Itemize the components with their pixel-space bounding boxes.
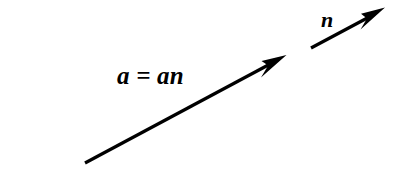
resultant-vector-label: a = an	[117, 63, 184, 88]
vector-diagram-figure: a = an n	[0, 0, 399, 175]
resultant-vector-a	[85, 55, 287, 163]
vector-diagram-canvas	[0, 0, 399, 175]
unit-vector-label: n	[321, 9, 333, 31]
unit-vector-shaft	[311, 16, 371, 48]
